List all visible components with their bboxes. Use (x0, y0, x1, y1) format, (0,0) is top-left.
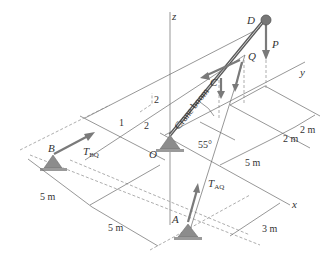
slope-triangle (140, 93, 152, 112)
plane-line-top (85, 28, 260, 118)
y-axis-label: y (299, 66, 305, 78)
dim-left-top-label: 5 m (40, 191, 56, 202)
grid-line-3 (200, 122, 235, 140)
force-Q-down (236, 62, 242, 85)
arrow-Q-down-icon (232, 84, 239, 92)
label-B: B (48, 142, 55, 154)
guide-line (90, 165, 160, 205)
crane-boom-diagram: z y x 2 1 2 Crane boom 55° P (0, 0, 334, 255)
arrow-P-icon (262, 50, 270, 60)
label-TBQ: TBQ (83, 145, 99, 159)
label-P: P (271, 38, 279, 50)
label-A: A (171, 213, 179, 225)
dim-bottom-right-label: 3 m (262, 223, 278, 234)
dim-left-bottom (92, 207, 158, 246)
arrow-TAQ-icon (193, 183, 200, 193)
grid-line-2 (265, 86, 320, 116)
dash-through-A (150, 195, 250, 250)
label-D: D (246, 14, 255, 26)
angle-label: 55° (198, 139, 212, 150)
slope-rise: 2 (154, 94, 159, 105)
slope-run-2: 2 (144, 120, 149, 131)
dash-B-line (20, 105, 110, 150)
x-axis (160, 133, 290, 205)
label-O: O (149, 148, 157, 160)
x-axis-label: x (291, 198, 297, 210)
z-axis-label: z (171, 10, 177, 22)
dim-right-mid-label: 5 m (245, 157, 261, 168)
arrow-C-icon (217, 91, 225, 99)
angle-arc (200, 102, 214, 116)
label-TAQ: TAQ (208, 177, 224, 191)
dim-left-bottom-label: 5 m (108, 222, 124, 233)
dim-right-2b-label: 2 m (283, 133, 299, 144)
arrow-TBQ-icon (84, 132, 95, 141)
support-B-icon (40, 155, 67, 171)
label-C: C (210, 76, 218, 88)
dim-right-2a-label: 2 m (300, 124, 316, 135)
dash-through-O (70, 160, 250, 235)
slope-run-1: 1 (119, 117, 124, 128)
force-TAQ (188, 190, 197, 222)
support-O-icon (156, 135, 184, 152)
pulley-D-icon (261, 15, 271, 25)
support-A-icon (174, 224, 202, 240)
label-Q: Q (248, 50, 256, 62)
